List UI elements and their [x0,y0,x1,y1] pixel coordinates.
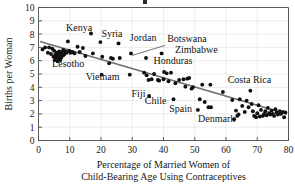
y-tick-label: 6 [30,56,35,66]
data-point [263,109,267,113]
data-point [272,114,276,118]
data-point [255,111,259,115]
data-point [111,57,115,61]
y-tick-label: 2 [30,109,35,119]
data-point [209,105,213,109]
data-point [266,106,270,110]
country-label-costa-rica: Costa Rica [228,74,272,85]
y-tick-label: 0 [30,136,35,146]
country-label-spain: Spain [169,103,192,114]
country-label-vietnam: Vietnam [86,71,120,82]
data-point [165,71,169,75]
data-point [150,77,154,81]
scatter-plot-figure: 01020304050607080 012345678910 KenyaSyri… [0,0,295,184]
data-point [250,102,254,106]
top-edge-artifact [143,0,147,4]
y-tick-label: 9 [30,16,35,26]
data-point [230,98,234,102]
chart-canvas: 01020304050607080 012345678910 KenyaSyri… [0,0,295,184]
data-point [240,104,244,108]
data-point [76,45,80,49]
data-point [100,55,104,59]
data-point [243,110,247,114]
data-point [177,78,181,82]
data-point [107,61,111,65]
y-tick-label: 3 [30,96,35,106]
data-point [200,83,204,87]
data-point [152,72,156,76]
data-point [273,107,277,111]
data-point [245,99,249,103]
data-point [248,89,252,93]
x-tick-label: 0 [36,145,41,155]
data-point [238,97,242,101]
x-tick-label: 30 [128,145,138,155]
y-tick-label: 10 [25,3,35,13]
data-point [72,51,76,55]
data-point [91,51,95,55]
y-axis-tick-labels: 012345678910 [25,3,35,146]
y-tick-label: 8 [30,30,35,40]
data-point [157,79,161,83]
data-point [247,105,251,109]
data-point [43,45,47,49]
data-point [282,115,286,119]
x-tick-label: 20 [96,145,106,155]
x-tick-label: 70 [253,145,263,155]
country-labels: KenyaSyriaJordanBotswanaZimbabweHonduras… [52,22,272,123]
x-tick-label: 50 [190,145,200,155]
x-tick-label: 80 [284,145,294,155]
country-label-chile: Chile [145,95,167,106]
data-point [66,39,70,43]
data-point [162,77,166,81]
data-point [237,113,241,117]
data-point [251,109,255,113]
country-label-lesotho: Lesotho [52,58,84,69]
data-point [259,108,263,112]
data-point [98,40,102,44]
data-point [145,73,149,77]
data-point [117,41,121,45]
data-point [144,56,148,60]
data-point [169,71,173,75]
data-point [257,103,261,107]
data-point [187,76,191,80]
data-point [183,85,187,89]
x-tick-label: 10 [65,145,75,155]
data-point [198,97,202,101]
data-point [78,50,82,54]
data-point [283,111,287,115]
x-axis-title-line1: Percentage of Married Women of [97,159,231,170]
data-point [182,77,186,81]
y-axis-title: Births per Woman [3,38,14,111]
y-tick-label: 1 [30,123,35,133]
data-point [270,109,274,113]
country-label-honduras: Honduras [153,55,192,66]
data-point [129,51,133,55]
data-point [173,81,177,85]
y-tick-label: 7 [30,43,35,53]
data-point [118,56,122,60]
y-tick-label: 5 [30,69,35,79]
x-axis-tick-labels: 01020304050607080 [36,145,293,155]
data-point [191,85,195,89]
x-tick-label: 60 [221,145,231,155]
data-point [208,83,212,87]
y-tick-label: 4 [30,83,35,93]
x-axis-title-line2: Child-Bearing Age Using Contraceptives [81,171,246,182]
data-point [254,115,258,119]
x-tick-label: 40 [159,145,169,155]
country-label-syria: Syria [101,28,123,39]
country-label-denmark: Denmark [198,113,235,124]
country-label-fiji: Fiji [132,88,146,99]
country-label-zimbabwe: Zimbabwe [175,44,218,55]
country-label-botswana: Botswana [167,33,207,44]
data-point [167,79,171,83]
data-point [81,46,85,50]
country-label-kenya: Kenya [66,22,93,33]
country-label-jordan: Jordan [130,32,157,43]
data-point [128,73,132,77]
data-point [221,90,225,94]
data-point [196,108,200,112]
axis-titles: Births per WomanPercentage of Married Wo… [3,38,246,182]
